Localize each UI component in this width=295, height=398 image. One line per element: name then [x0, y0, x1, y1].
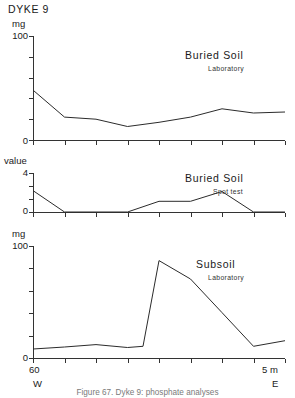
x-axis-left-label: 60: [29, 364, 40, 375]
panel1-y-unit: mg: [12, 18, 25, 29]
panel2-data-line: [33, 173, 285, 212]
panel3-x-tick: [285, 359, 286, 363]
panel3-x-tick: [128, 359, 129, 363]
panel2-y-max-label: 4: [4, 167, 28, 178]
panel3-data-line: [33, 246, 285, 358]
panel-subsoil-laboratory: mg 100 0 Subsoil Laboratory: [0, 228, 295, 368]
panel3-x-tick: [254, 359, 255, 363]
panel3-x-tick: [191, 359, 192, 363]
panel-buried-soil-spot-test: value 4 0 Buried Soil Spot test: [0, 155, 295, 222]
figure-caption: Figure 67. Dyke 9: phosphate analyses: [0, 388, 295, 397]
panel2-x-tick: [96, 213, 97, 217]
panel1-x-tick: [254, 141, 255, 145]
panel1-x-tick: [285, 141, 286, 145]
panel2-x-tick: [191, 213, 192, 217]
panel2-x-tick: [128, 213, 129, 217]
panel2-y-unit: value: [4, 155, 27, 166]
panel3-x-tick: [159, 359, 160, 363]
panel1-plot-area: Buried Soil Laboratory: [33, 36, 285, 144]
figure-dyke-9: DYKE 9 mg 100 0 Buried: [0, 0, 295, 398]
panel3-y-min-label: 0: [4, 352, 28, 363]
panel1-y-max-label: 100: [4, 30, 28, 41]
panel1-sub-annotation: Laboratory: [208, 65, 244, 72]
panel1-x-tick: [33, 141, 34, 145]
panel2-x-tick: [159, 213, 160, 217]
panel1-x-tick: [159, 141, 160, 145]
panel3-x-tick: [33, 359, 34, 363]
panel2-plot-area: Buried Soil Spot test: [33, 173, 285, 219]
panel2-x-tick: [65, 213, 66, 217]
panel1-data-line: [33, 36, 285, 140]
panel1-x-tick: [65, 141, 66, 145]
page-title: DYKE 9: [8, 3, 49, 15]
panel3-plot-area: Subsoil Laboratory: [33, 246, 285, 361]
panel1-annotation: Buried Soil: [185, 49, 243, 61]
panel3-sub-annotation: Laboratory: [208, 274, 244, 281]
panel2-annotation: Buried Soil: [185, 172, 243, 184]
panel3-x-tick: [222, 359, 223, 363]
panel1-x-tick: [191, 141, 192, 145]
panel3-y-max-label: 100: [4, 240, 28, 251]
panel1-y-min-label: 0: [4, 135, 28, 146]
panel3-x-tick: [96, 359, 97, 363]
panel2-x-tick: [222, 213, 223, 217]
panel2-x-tick: [33, 213, 34, 217]
panel1-x-tick: [96, 141, 97, 145]
panel3-y-unit: mg: [12, 228, 25, 239]
x-axis-right-label: 5 m: [262, 364, 278, 375]
panel1-x-tick: [222, 141, 223, 145]
panel2-x-tick: [254, 213, 255, 217]
panel2-y-min-label: 0: [4, 205, 28, 216]
panel2-x-tick: [285, 213, 286, 217]
panel-buried-soil-laboratory: mg 100 0 Buried Soil Labora: [0, 18, 295, 150]
panel3-annotation: Subsoil: [196, 258, 235, 270]
panel1-x-tick: [128, 141, 129, 145]
panel2-sub-annotation: Spot test: [213, 188, 243, 195]
panel3-x-tick: [65, 359, 66, 363]
